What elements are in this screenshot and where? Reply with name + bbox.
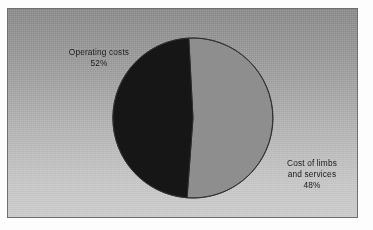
slice-label-operating-costs: Operating costs 52% — [51, 47, 147, 69]
chart-panel: Operating costs 52% Cost of limbs and se… — [7, 8, 358, 218]
slice-label-operating-costs-percent: 52% — [51, 58, 147, 69]
slice-label-cost-of-limbs-line2: and services — [288, 169, 336, 179]
pie-chart-figure: Operating costs 52% Cost of limbs and se… — [0, 0, 373, 230]
slice-label-cost-of-limbs: Cost of limbs and services 48% — [266, 158, 358, 191]
slice-label-cost-of-limbs-line1: Cost of limbs — [287, 158, 337, 168]
slice-label-operating-costs-name: Operating costs — [69, 47, 129, 57]
pie-slice-operating-costs — [187, 38, 273, 198]
slice-label-cost-of-limbs-percent: 48% — [266, 180, 358, 191]
